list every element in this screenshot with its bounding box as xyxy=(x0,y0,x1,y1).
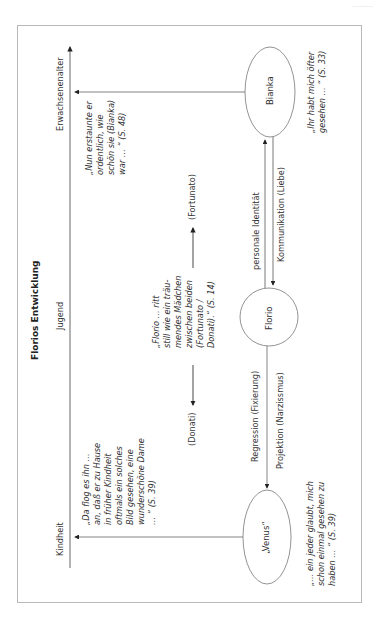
edge-label-projection: Projektion (Narzissmus) xyxy=(275,372,286,469)
node-label-florio: Florio xyxy=(264,306,275,330)
quote-ihr-habt: „Ihr habt mich öfter gesehen … “ (S. 33) xyxy=(306,51,328,133)
edge-label-identity: personale Identität xyxy=(251,192,262,270)
axis-label-childhood: Kindheit xyxy=(55,522,66,556)
edge-label-fortunato: (Fortunato) xyxy=(187,174,198,220)
edge-label-donati: (Donati) xyxy=(187,413,198,446)
node-label-bianka: Bianka xyxy=(265,76,276,105)
diagram-title: Florios Entwicklung xyxy=(30,260,41,360)
quote-florio-ritt: „Florio … ritt still wie ein träu- mende… xyxy=(151,275,217,348)
quote-da-flog: „Da flog es ihn … an, daß er zu Hause in… xyxy=(81,438,158,525)
quote-nun-erstaunte: „Nun erstaunte er ordentlich, wie schön … xyxy=(84,100,128,175)
quote-ein-jeder: „… ein jeder glaubt, mich schon einmal g… xyxy=(305,481,338,586)
edge-label-communication: Kommunikation (Liebe) xyxy=(276,167,287,262)
axis-label-adulthood: Erwachsenenalter xyxy=(55,57,66,131)
edge-label-regression: Regression (Fixierung) xyxy=(250,371,261,462)
node-label-venus: „Venus“ xyxy=(261,521,272,554)
axis-label-youth: Jugend xyxy=(55,302,66,330)
